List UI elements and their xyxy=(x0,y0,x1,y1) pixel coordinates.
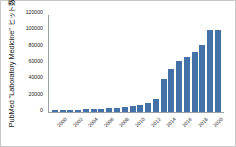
bar xyxy=(122,107,128,112)
bar xyxy=(60,110,66,112)
bar xyxy=(67,110,73,112)
bar xyxy=(52,110,58,112)
x-tick-label: 2020 xyxy=(212,116,224,128)
y-tick-label: 120000 xyxy=(26,9,43,15)
bar xyxy=(98,109,104,112)
bar xyxy=(91,109,97,112)
bar xyxy=(184,57,190,112)
bar xyxy=(168,69,174,112)
y-tick-label: 60000 xyxy=(29,58,43,64)
bar xyxy=(207,30,213,112)
bar xyxy=(83,109,89,112)
bar xyxy=(192,52,198,112)
bar xyxy=(215,30,221,112)
x-tick-label: 2012 xyxy=(149,116,161,128)
y-tick-label: 20000 xyxy=(29,91,43,97)
plot-area xyxy=(48,15,224,113)
x-axis-tick-labels: 2000200220042006200820102012201420162018… xyxy=(48,114,224,146)
y-tick-label: 40000 xyxy=(29,74,43,80)
x-tick-label: 2016 xyxy=(181,116,193,128)
bar xyxy=(130,106,136,112)
y-tick-label: 80000 xyxy=(29,42,43,48)
bar xyxy=(145,103,151,112)
x-tick-label: 2004 xyxy=(87,116,99,128)
y-axis-tick-labels: 020000400006000080000100000120000 xyxy=(1,9,46,113)
x-tick-label: 2002 xyxy=(71,116,83,128)
y-tick-label: 100000 xyxy=(26,25,43,31)
bar xyxy=(106,108,112,112)
x-tick-label: 2018 xyxy=(196,116,208,128)
x-tick-label: 2008 xyxy=(118,116,130,128)
x-tick-label: 2006 xyxy=(103,116,115,128)
bar-series xyxy=(49,15,224,112)
bar xyxy=(114,108,120,112)
bar xyxy=(75,110,81,112)
bar xyxy=(137,105,143,112)
y-tick-label: 0 xyxy=(40,107,43,113)
x-tick-label: 2000 xyxy=(56,116,68,128)
x-tick-label: 2014 xyxy=(165,116,177,128)
bar xyxy=(153,99,159,112)
bar xyxy=(199,45,205,112)
chart-figure: PubMed "Laboratory Medicine" ヒット数 020000… xyxy=(0,0,236,147)
bar xyxy=(176,61,182,112)
x-tick-label: 2010 xyxy=(134,116,146,128)
bar xyxy=(161,79,167,112)
